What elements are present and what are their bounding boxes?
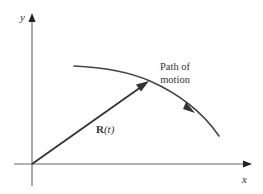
path-label-line1: Path of <box>160 60 190 73</box>
vector-label: R(t) <box>96 124 114 135</box>
x-axis-arrow-icon <box>243 161 252 168</box>
path-label: Path of motion <box>160 60 190 86</box>
vector-symbol: R <box>96 123 104 135</box>
x-axis <box>14 161 252 168</box>
path-label-line2: motion <box>160 73 190 86</box>
x-axis-label: x <box>242 174 247 185</box>
diagram-canvas <box>0 0 263 194</box>
y-axis-arrow-icon <box>29 13 36 22</box>
vector-argument: (t) <box>104 123 114 135</box>
y-axis <box>29 13 36 186</box>
y-axis-label: y <box>20 12 25 23</box>
position-vector <box>32 81 149 164</box>
